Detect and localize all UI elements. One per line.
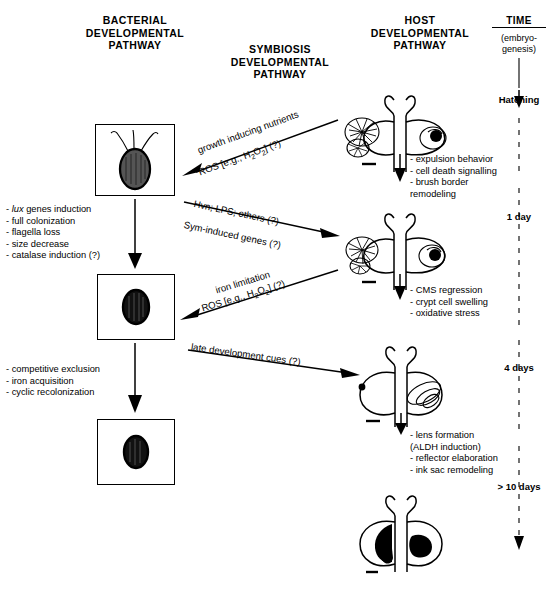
time-mark-hatching: Hatching xyxy=(489,94,549,105)
bacterial-stage-1-box xyxy=(95,124,175,196)
host-stage-4-light-organ xyxy=(340,492,466,584)
host-notes-1-text: - expulsion behavior - cell death signal… xyxy=(410,154,497,199)
coccoid-bacterium-small-icon xyxy=(98,420,174,484)
bacterial-stage-2-box xyxy=(97,274,175,340)
time-mark-4-days: 4 days xyxy=(489,362,549,373)
column-heading-host: HOST DEVELOPMENTAL PATHWAY xyxy=(330,14,510,52)
bacterial-notes-1: - lux genes induction - full colonizatio… xyxy=(6,204,136,262)
host-notes-2-text: - CMS regression - crypt cell swelling -… xyxy=(410,285,488,318)
coccoid-bacterium-medium-icon xyxy=(98,275,174,339)
bacterial-notes-2: - competitive exclusion - iron acquisiti… xyxy=(6,364,136,399)
flagellated-rod-bacterium-icon xyxy=(96,125,174,195)
time-subtitle: (embryo- genesis) xyxy=(487,33,551,54)
host-stage-3-light-organ xyxy=(340,343,466,435)
time-mark-1-day: 1 day xyxy=(489,211,549,222)
figure-canvas: BACTERIAL DEVELOPMENTAL PATHWAY SYMBIOSI… xyxy=(0,0,559,590)
host-notes-2: - CMS regression - crypt cell swelling -… xyxy=(410,285,540,320)
bacterial-stage-3-box xyxy=(97,419,175,485)
bacterial-notes-1-text: - lux genes induction - full colonizatio… xyxy=(6,204,100,260)
column-heading-time: TIME xyxy=(492,15,546,28)
host-notes-1: - expulsion behavior - cell death signal… xyxy=(410,154,540,200)
host-notes-3: - lens formation (ALDH induction) - refl… xyxy=(410,430,545,476)
bacterial-notes-2-text: - competitive exclusion - iron acquisiti… xyxy=(6,364,100,397)
time-mark-10-days: > 10 days xyxy=(483,481,555,492)
host-notes-3-text: - lens formation (ALDH induction) - refl… xyxy=(410,430,498,475)
